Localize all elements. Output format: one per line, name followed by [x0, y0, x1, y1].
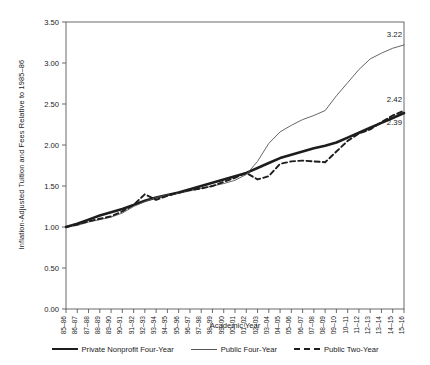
- legend-swatch-solid-thin-icon: [191, 345, 217, 353]
- y-axis-tick-label: 0.00: [44, 305, 59, 314]
- y-axis-tick-label: 2.00: [44, 141, 59, 150]
- series-end-value-label: 2.42: [387, 95, 402, 104]
- legend-item-private-nonprofit-four-year[interactable]: Private Nonprofit Four-Year: [52, 345, 174, 354]
- chart-figure: Inflation-Adjusted Tuition and Fees Rela…: [0, 0, 430, 365]
- y-axis-tick-label: 3.50: [44, 18, 59, 27]
- y-axis-tick-label: 2.50: [44, 100, 59, 109]
- series-end-value-label: 2.39: [387, 118, 402, 127]
- legend-swatch-dashed-icon: [294, 345, 320, 353]
- legend-item-public-two-year[interactable]: Public Two-Year: [294, 345, 378, 354]
- legend-label: Private Nonprofit Four-Year: [82, 345, 174, 354]
- series-end-value-label: 3.22: [387, 30, 402, 39]
- legend-label: Public Four-Year: [221, 345, 277, 354]
- chart-legend: Private Nonprofit Four-Year Public Four-…: [0, 341, 430, 357]
- x-axis-title: Academic Year: [66, 321, 404, 330]
- y-axis-tick-label: 0.50: [44, 264, 59, 273]
- series-line-private-nonprofit-four-year: [66, 113, 404, 227]
- plot-frame: [66, 22, 404, 309]
- legend-label: Public Two-Year: [324, 345, 378, 354]
- plot-area: 0.000.501.001.502.002.503.003.5085–8686–…: [0, 0, 430, 340]
- y-axis-tick-label: 3.00: [44, 59, 59, 68]
- y-axis-tick-label: 1.50: [44, 182, 59, 191]
- legend-swatch-solid-thick-icon: [52, 345, 78, 353]
- y-axis-tick-label: 1.00: [44, 223, 59, 232]
- legend-item-public-four-year[interactable]: Public Four-Year: [191, 345, 277, 354]
